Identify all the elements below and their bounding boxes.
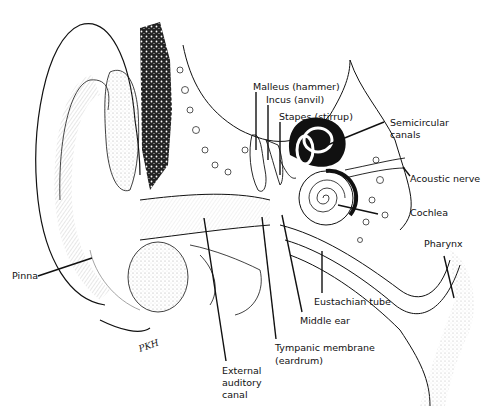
label-pinna: Pinna [12, 270, 38, 282]
label-tympanic-membrane-1: Tympanic membrane [275, 342, 375, 354]
ear-anatomy-illustration: PKH [0, 0, 489, 406]
label-tympanic-membrane-2: (eardrum) [275, 355, 323, 367]
label-external-auditory-canal-3: canal [222, 389, 248, 401]
label-cochlea: Cochlea [410, 207, 448, 219]
label-stapes: Stapes (stirrup) [279, 111, 353, 123]
label-malleus: Malleus (hammer) [253, 81, 340, 93]
semicircular-canals-drawing [289, 118, 346, 167]
acoustic-nerve-drawing [345, 158, 405, 178]
concha [105, 70, 139, 190]
label-eustachian-tube: Eustachian tube [314, 296, 391, 308]
cartilage-lobe [128, 242, 188, 312]
pinna-shading [55, 75, 110, 300]
label-middle-ear: Middle ear [300, 315, 350, 327]
pharynx-stipple [420, 250, 474, 406]
lower-structures [190, 245, 261, 315]
cochlea-drawing [299, 171, 356, 225]
label-semicircular-canals-2: canals [390, 129, 420, 141]
artist-signature: PKH [136, 337, 160, 354]
label-incus: Incus (anvil) [266, 94, 324, 106]
temporal-bone [140, 22, 172, 190]
label-pharynx: Pharynx [424, 238, 463, 250]
label-external-auditory-canal-2: auditory [222, 377, 262, 389]
label-acoustic-nerve: Acoustic nerve [410, 173, 480, 185]
label-semicircular-canals-1: Semicircular [390, 117, 449, 129]
label-external-auditory-canal-1: External [222, 365, 261, 377]
